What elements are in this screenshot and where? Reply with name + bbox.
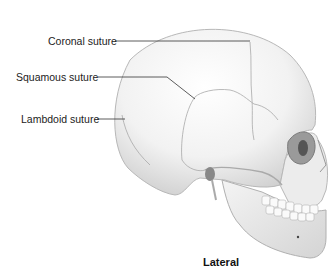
label-squamous-suture: Squamous suture xyxy=(16,71,98,83)
label-lambdoid-suture: Lambdoid suture xyxy=(21,113,99,125)
skull-lateral-diagram: Coronal suture Squamous suture Lambdoid … xyxy=(0,0,334,280)
label-coronal-suture: Coronal suture xyxy=(48,35,117,47)
view-caption: Lateral xyxy=(203,256,239,268)
ear-canal xyxy=(205,167,215,181)
